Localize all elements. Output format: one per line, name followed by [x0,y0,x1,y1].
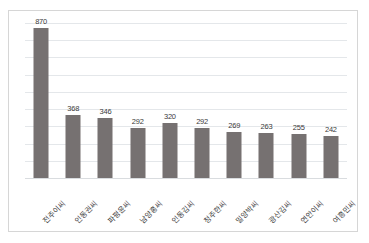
bar-value-label: 255 [293,123,305,132]
bar[interactable] [130,128,145,178]
bar[interactable] [98,118,113,178]
bar-group: 263 [250,23,282,178]
category-label: 연안이씨 [297,198,324,225]
category-label: 파평윤씨 [104,198,131,225]
bar-value-label: 368 [67,104,79,113]
bars-series: 870368346292320292269263255242 [25,23,347,178]
bar-group: 320 [154,23,186,178]
category-label: 남양홍씨 [136,198,163,225]
category-label: 전주이씨 [40,198,67,225]
bar-value-label: 269 [228,121,240,130]
bar-value-label: 870 [35,17,47,26]
chart-frame: 870368346292320292269263255242 전주이씨인동권씨파… [8,10,358,232]
bar-value-label: 320 [164,112,176,121]
bar[interactable] [291,134,306,178]
bar-group: 346 [89,23,121,178]
bar[interactable] [323,136,338,178]
bar[interactable] [66,115,81,178]
bar-group: 870 [25,23,57,178]
bar-value-label: 242 [325,125,337,134]
category-label: 여흥민씨 [330,198,357,225]
bar-group: 292 [186,23,218,178]
bar-value-label: 292 [132,117,144,126]
bar[interactable] [34,28,49,178]
category-axis-labels: 전주이씨인동권씨파평윤씨남양홍씨인동김씨청주한씨밀양박씨광산김씨연안이씨여흥민씨 [25,179,347,231]
bar-group: 255 [283,23,315,178]
bar[interactable] [259,133,274,178]
bar-group: 269 [218,23,250,178]
category-label: 인동김씨 [169,198,196,225]
bar[interactable] [162,123,177,178]
bar-group: 368 [57,23,89,178]
bar-group: 292 [122,23,154,178]
category-label: 인동권씨 [72,198,99,225]
category-label: 밀양박씨 [233,198,260,225]
bar-value-label: 346 [100,107,112,116]
plot-area: 870368346292320292269263255242 [25,23,347,178]
category-label: 광산김씨 [265,198,292,225]
bar-group: 242 [315,23,347,178]
category-label: 청주한씨 [201,198,228,225]
bar-value-label: 292 [196,117,208,126]
bar[interactable] [227,132,242,178]
bar-value-label: 263 [261,122,273,131]
bar[interactable] [195,128,210,178]
